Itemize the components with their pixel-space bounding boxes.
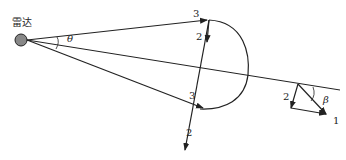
vec-2-label: 2	[283, 92, 289, 102]
ray-top	[27, 20, 207, 40]
ray-center	[27, 40, 340, 90]
vec-2	[291, 84, 298, 108]
down-lower-label: 2	[186, 128, 192, 138]
vec-1-label: 1	[333, 116, 339, 126]
theta-arc	[56, 37, 58, 49]
radar-icon	[15, 34, 27, 46]
down-upper-label: 2	[196, 32, 202, 42]
beta-label: β	[323, 95, 329, 105]
radar-label: 雷达	[12, 18, 32, 28]
ray-top-label: 3	[193, 9, 199, 19]
diagram-canvas	[0, 0, 346, 160]
ray-bottom-label: 3	[189, 91, 195, 101]
theta-label: θ	[67, 34, 73, 44]
ray-bottom	[27, 40, 203, 108]
